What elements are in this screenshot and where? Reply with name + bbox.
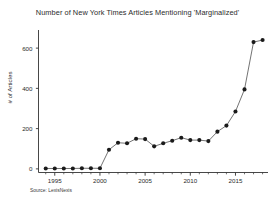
data-point-marker <box>62 166 66 170</box>
data-point-marker <box>233 109 237 113</box>
data-point-marker <box>224 124 228 128</box>
data-point-marker <box>170 139 174 143</box>
x-axis-ticks <box>46 173 263 176</box>
x-tick-label: 2005 <box>130 177 160 184</box>
data-point-marker <box>251 40 255 44</box>
chart-figure: Number of New York Times Articles Mentio… <box>0 0 275 205</box>
data-point-marker <box>215 130 219 134</box>
plot-area <box>0 0 275 205</box>
data-point-marker <box>242 87 246 91</box>
x-tick-label: 2000 <box>85 177 115 184</box>
data-point-marker <box>44 166 48 170</box>
data-point-marker <box>53 166 57 170</box>
data-point-marker <box>161 141 165 145</box>
x-tick-label: 2015 <box>220 177 250 184</box>
data-point-marker <box>98 166 102 170</box>
y-tick-label: 200 <box>0 125 33 132</box>
series-line <box>46 40 263 168</box>
data-point-marker <box>125 141 129 145</box>
data-point-marker <box>261 38 265 42</box>
data-point-marker <box>206 139 210 143</box>
series-markers <box>44 38 265 171</box>
data-point-marker <box>107 148 111 152</box>
data-point-marker <box>179 136 183 140</box>
data-point-marker <box>152 144 156 148</box>
x-tick-label: 2010 <box>175 177 205 184</box>
data-point-marker <box>71 166 75 170</box>
y-tick-label: 600 <box>0 45 33 52</box>
axes <box>36 30 268 176</box>
data-point-marker <box>80 166 84 170</box>
y-tick-label: 0 <box>0 165 33 172</box>
x-tick-label: 1995 <box>40 177 70 184</box>
source-note: Source: LexisNexis <box>30 188 72 193</box>
data-point-marker <box>89 166 93 170</box>
data-point-marker <box>143 137 147 141</box>
y-tick-label: 400 <box>0 85 33 92</box>
data-point-marker <box>197 138 201 142</box>
data-point-marker <box>116 141 120 145</box>
data-point-marker <box>134 137 138 141</box>
data-point-marker <box>188 138 192 142</box>
